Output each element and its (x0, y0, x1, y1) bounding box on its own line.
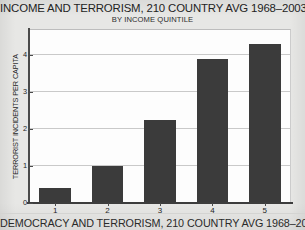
bar (39, 188, 70, 203)
figure-page: INCOME AND TERRORISM, 210 COUNTRY AVG 19… (0, 0, 305, 230)
bar (249, 44, 280, 203)
x-tick-mark (55, 203, 56, 206)
next-figure-title: DEMOCRACY AND TERRORISM, 210 COUNTRY AVG… (0, 217, 305, 230)
x-tick-mark (160, 203, 161, 206)
y-tick-mark (29, 55, 33, 56)
y-tick-mark (29, 203, 33, 204)
x-tick-mark (212, 203, 213, 206)
y-tick-mark (29, 166, 33, 167)
section-divider (0, 213, 305, 214)
y-tick-label: 0 (15, 199, 27, 207)
bars-layer (29, 30, 290, 203)
x-tick-mark (265, 203, 266, 206)
chart-subtitle: BY INCOME QUINTILE (0, 15, 305, 25)
x-tick-mark (108, 203, 109, 206)
y-tick-mark (29, 129, 33, 130)
y-axis-label: TERRORIST INCIDENTS PER CAPITA (11, 42, 20, 192)
bar (92, 166, 123, 203)
plot-area (29, 29, 291, 203)
bar (144, 120, 175, 203)
page-title: INCOME AND TERRORISM, 210 COUNTRY AVG 19… (0, 1, 305, 15)
bar (197, 59, 228, 203)
y-tick-mark (29, 92, 33, 93)
